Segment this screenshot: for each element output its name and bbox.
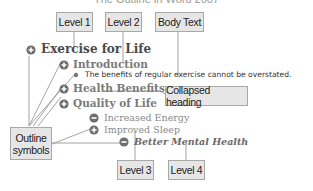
callout-outline-symbols-line1: Outline	[15, 132, 46, 144]
heading-level-4-better-mental-health[interactable]: Better Mental Health	[134, 136, 248, 147]
heading-level-1-exercise-for-life[interactable]: Exercise for Life	[41, 42, 151, 56]
heading-level-2-introduction[interactable]: Introduction	[73, 58, 148, 70]
body-text-paragraph[interactable]: The benefits of regular exercise cannot …	[85, 70, 292, 79]
callout-level-1: Level 1	[56, 12, 93, 32]
collapse-minus-icon[interactable]	[89, 113, 99, 123]
collapse-minus-icon[interactable]	[119, 137, 129, 147]
expand-plus-icon[interactable]	[26, 45, 36, 55]
expand-plus-icon[interactable]	[59, 99, 69, 109]
callout-level-3: Level 3	[117, 160, 154, 180]
callout-body-text: Body Text	[155, 12, 204, 32]
heading-level-2-health-benefits-collapsed[interactable]: Health Benefits	[73, 82, 165, 94]
heading-level-3-increased-energy[interactable]: Increased Energy	[104, 112, 189, 123]
callout-level-2: Level 2	[105, 12, 142, 32]
callout-level-4: Level 4	[168, 160, 205, 180]
expand-plus-icon[interactable]	[89, 125, 99, 135]
heading-level-3-improved-sleep[interactable]: Improved Sleep	[104, 124, 180, 135]
callout-collapsed-heading: Collapsed heading	[165, 86, 248, 106]
callout-outline-symbols: Outline symbols	[10, 127, 52, 160]
heading-level-2-quality-of-life[interactable]: Quality of Life	[73, 97, 157, 109]
body-text-bullet-icon	[73, 72, 79, 78]
expand-plus-icon[interactable]	[59, 60, 69, 70]
callout-outline-symbols-line2: symbols	[13, 144, 49, 156]
expand-plus-icon[interactable]	[59, 84, 69, 94]
